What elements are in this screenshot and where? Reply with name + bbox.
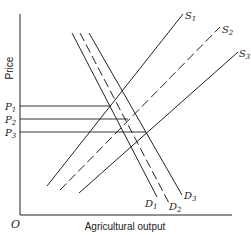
price-label-p3: P3 (4, 127, 17, 140)
x-axis-label: Agricultural output (85, 221, 166, 232)
supply-label-s3: S3 (239, 48, 251, 61)
y-axis-label: Price (4, 56, 15, 79)
demand-label-d1: D1 (144, 198, 158, 211)
supply-curve-s1 (47, 14, 183, 186)
supply-demand-diagram: Price Agricultural output O P1 P2 P3 S1 … (0, 0, 251, 235)
supply-label-s1: S1 (185, 10, 196, 23)
origin-label: O (11, 218, 20, 231)
supply-label-s2: S2 (222, 24, 234, 37)
price-label-p2: P2 (4, 114, 17, 127)
price-label-p1: P1 (4, 101, 16, 114)
demand-curve-d1 (72, 33, 157, 197)
supply-curve-s3 (79, 52, 238, 193)
supply-curve-s2 (60, 27, 220, 190)
demand-label-d3: D3 (183, 190, 197, 203)
demand-label-d2: D2 (168, 201, 182, 214)
